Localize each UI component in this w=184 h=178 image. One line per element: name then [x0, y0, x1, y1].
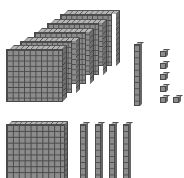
base-ten-blocks-diagram: base-ten blocks [0, 0, 184, 178]
diagram-subject: base-ten blocks [0, 0, 1, 1]
